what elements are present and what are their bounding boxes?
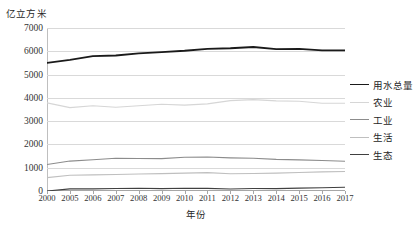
- x-tick-label: 2017: [336, 193, 353, 203]
- y-tick-label: 2000: [24, 139, 43, 149]
- y-tick-label: 5000: [24, 70, 43, 80]
- legend-item-3[interactable]: 工业: [350, 111, 418, 129]
- legend-line-swatch-icon: [350, 84, 369, 85]
- legend-item-4[interactable]: 生活: [350, 129, 418, 147]
- x-tick-label: 2008: [130, 193, 147, 203]
- legend-item-1[interactable]: 用水总量: [350, 76, 418, 94]
- y-tick-label: 1000: [24, 163, 43, 173]
- y-tick-label: 3000: [24, 116, 43, 126]
- series-line: [47, 100, 345, 108]
- legend-line-swatch-icon: [350, 102, 369, 103]
- legend-line-swatch-icon: [350, 137, 369, 138]
- legend-item-5[interactable]: 生态: [350, 146, 418, 164]
- x-tick-label: 2013: [245, 193, 262, 203]
- y-axis-unit-label: 亿立方米: [6, 6, 47, 20]
- x-tick-label: 2016: [313, 193, 330, 203]
- legend-label: 农业: [373, 95, 393, 109]
- x-tick-label: 2014: [268, 193, 285, 203]
- series-line: [47, 171, 345, 177]
- y-tick-label: 6000: [24, 46, 43, 56]
- y-tick-label: 4000: [24, 93, 43, 103]
- series-line: [47, 187, 345, 191]
- x-tick-label: 2005: [61, 193, 78, 203]
- legend-label: 生活: [373, 130, 393, 144]
- x-tick-label: 2006: [84, 193, 101, 203]
- legend-line-swatch-icon: [350, 119, 369, 120]
- x-tick-label: 2015: [291, 193, 308, 203]
- legend-item-2[interactable]: 农业: [350, 94, 418, 112]
- legend-line-swatch-icon: [350, 154, 369, 155]
- x-tick-label: 2000: [38, 193, 55, 203]
- y-tick-label: 7000: [24, 23, 43, 33]
- plot-area: [47, 28, 345, 191]
- x-tick-label: 2010: [176, 193, 193, 203]
- series-line: [47, 157, 345, 165]
- legend-label: 用水总量: [373, 78, 413, 92]
- series-line: [47, 47, 345, 63]
- x-tick-label: 2012: [222, 193, 239, 203]
- legend-label: 生态: [373, 148, 393, 162]
- y-axis-tick-labels: 70006000500040003000200010000: [0, 28, 43, 191]
- series-lines: [47, 28, 345, 191]
- x-tick-label: 2007: [107, 193, 124, 203]
- water-use-line-chart: 亿立方米 70006000500040003000200010000 20002…: [0, 0, 419, 237]
- x-tick-label: 2009: [153, 193, 170, 203]
- legend-label: 工业: [373, 113, 393, 127]
- x-axis-tick-labels: 2000200520062007200820092010201120122013…: [47, 193, 345, 207]
- x-axis-title: 年份: [47, 207, 345, 221]
- x-tick-label: 2011: [199, 193, 216, 203]
- chart-legend: 用水总量农业工业生活生态: [350, 76, 418, 164]
